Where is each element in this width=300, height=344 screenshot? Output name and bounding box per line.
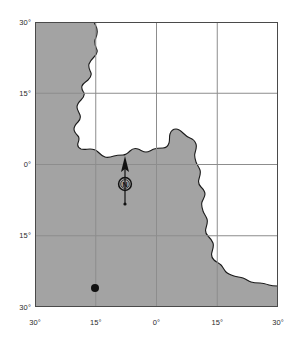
- map-graphics: [35, 22, 278, 307]
- compass-label: N: [122, 181, 127, 188]
- tick-label-lat-15s: 15°: [5, 231, 31, 240]
- tick-label-lat-30n: 30°: [5, 18, 31, 27]
- map-figure: N 30° 15° 0° 15° 30° 30° 15° 0° 15° 30°: [0, 0, 300, 344]
- tick-label-lon-0: 0°: [140, 318, 174, 327]
- tick-label-lon-15e: 15°: [200, 318, 234, 327]
- map-canvas[interactable]: N: [35, 22, 278, 307]
- tick-label-lat-30s: 30°: [5, 303, 31, 312]
- location-dot-icon[interactable]: [91, 284, 99, 292]
- tick-label-lon-15w: 15°: [79, 318, 113, 327]
- tick-label-lon-30e: 30°: [261, 318, 295, 327]
- tick-label-lon-30w: 30°: [18, 318, 52, 327]
- tick-label-lat-0: 0°: [5, 160, 31, 169]
- tick-label-lat-15n: 15°: [5, 89, 31, 98]
- north-arrow-icon: N: [112, 156, 138, 208]
- compass-rose: N: [112, 156, 138, 208]
